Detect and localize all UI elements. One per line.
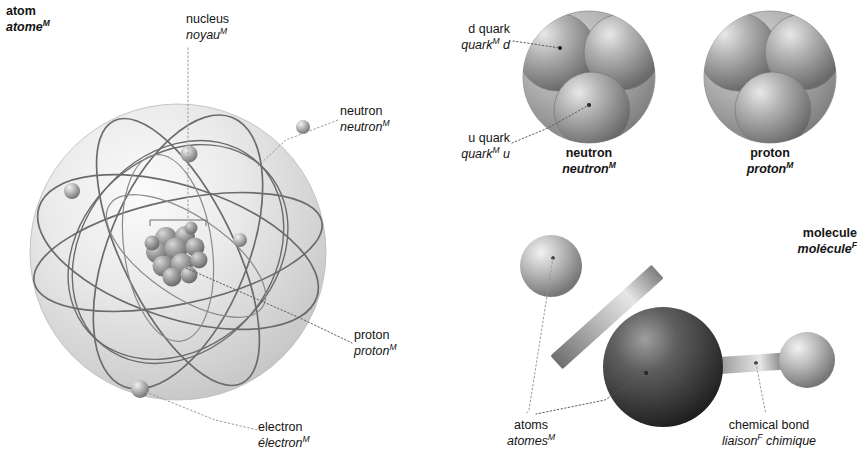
label-atoms-en: atoms (466, 418, 596, 434)
label-neutron-title: neutron neutronM (519, 146, 659, 177)
label-atom-fr: atomeM (6, 20, 50, 36)
proton-particle (699, 11, 841, 148)
label-proton-atom: proton protonM (354, 328, 397, 359)
label-atom: atom atomeM (6, 4, 50, 35)
atom-sphere (19, 91, 337, 412)
label-proton-title-en: proton (700, 146, 840, 162)
label-proton-title-fr: protonM (700, 162, 840, 178)
label-chemical-bond: chemical bond liaisonF chimique (686, 418, 852, 449)
label-chemical-bond-en: chemical bond (686, 418, 852, 434)
label-atoms: atoms atomesM (466, 418, 596, 449)
label-neutron-title-fr: neutronM (519, 162, 659, 178)
label-electron-fr: électronM (258, 436, 310, 452)
label-chemical-bond-fr: liaisonF chimique (686, 434, 852, 450)
label-molecule: molecule moléculeF (700, 226, 857, 257)
label-u-quark-en: u quark (372, 131, 510, 147)
label-nucleus: nucleus noyauM (186, 12, 229, 43)
label-proton-atom-fr: protonM (354, 344, 397, 360)
label-molecule-en: molecule (700, 226, 857, 242)
outer-atom-sphere-left (520, 235, 582, 297)
diagram-canvas: atom atomeM nucleus noyauM neutron neutr… (0, 0, 863, 459)
label-d-quark-en: d quark (372, 22, 510, 38)
label-d-quark: d quark quarkM d (372, 22, 510, 53)
label-proton-title: proton protonM (700, 146, 840, 177)
label-atoms-fr: atomesM (466, 434, 596, 450)
outer-atom-sphere-right (779, 332, 835, 388)
neutron-particle (518, 11, 660, 148)
label-u-quark-fr: quarkM u (372, 147, 510, 163)
label-electron: electron électronM (258, 420, 310, 451)
label-u-quark: u quark quarkM u (372, 131, 510, 162)
label-neutron-title-en: neutron (519, 146, 659, 162)
label-nucleus-fr: noyauM (186, 28, 229, 44)
central-atom-sphere (603, 307, 723, 427)
label-molecule-fr: moléculeF (700, 242, 857, 258)
molecule-model (520, 235, 835, 427)
label-d-quark-fr: quarkM d (372, 38, 510, 54)
